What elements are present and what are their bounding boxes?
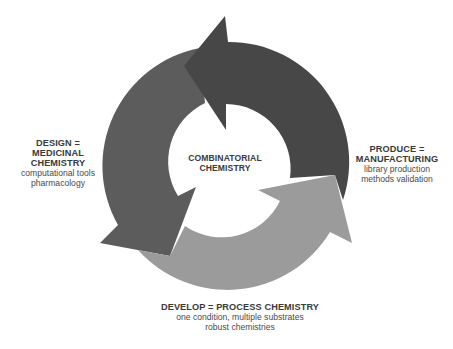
- produce-stage-details: library production methods validation: [350, 164, 444, 184]
- design-stage-details: computational tools pharmacology: [14, 168, 102, 188]
- develop-stage-title: DEVELOP = PROCESS CHEMISTRY: [150, 302, 330, 312]
- center-label: COMBINATORIAL CHEMISTRY: [180, 154, 270, 173]
- produce-stage-label: PRODUCE = MANUFACTURING library producti…: [350, 144, 444, 184]
- produce-stage-title: PRODUCE = MANUFACTURING: [350, 144, 444, 164]
- design-stage-title: DESIGN = MEDICINAL CHEMISTRY: [14, 138, 102, 168]
- design-arrow: [100, 48, 205, 256]
- design-stage-label: DESIGN = MEDICINAL CHEMISTRY computation…: [14, 138, 102, 188]
- develop-stage-details: one condition, multiple substrates robus…: [150, 312, 330, 332]
- center-title: COMBINATORIAL CHEMISTRY: [180, 154, 270, 173]
- develop-stage-label: DEVELOP = PROCESS CHEMISTRY one conditio…: [150, 302, 330, 332]
